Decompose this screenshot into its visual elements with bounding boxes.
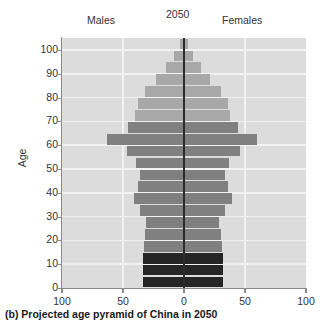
center-axis-line	[183, 38, 184, 288]
bar-males-75-79	[138, 98, 184, 109]
chart-year-title: 2050	[166, 8, 189, 20]
bar-females-30-34	[184, 205, 225, 216]
bar-females-45-49	[184, 170, 225, 181]
x-tick-mark-3	[244, 288, 245, 293]
x-tick-mark-0	[61, 288, 62, 293]
bar-males-0-4	[143, 277, 184, 288]
bar-males-35-39	[134, 193, 184, 204]
bar-males-60-64	[107, 134, 184, 145]
y-tick-label-70: 70	[6, 114, 58, 126]
bar-females-95-99	[184, 51, 193, 62]
bar-females-35-39	[184, 193, 232, 204]
bar-females-85-89	[184, 74, 210, 85]
y-tick-label-40: 40	[6, 186, 58, 198]
vgridline-50	[244, 38, 246, 288]
bar-females-55-59	[184, 146, 240, 157]
bar-females-40-44	[184, 181, 228, 192]
y-tick-label-60: 60	[6, 138, 58, 150]
bar-males-70-74	[135, 110, 184, 121]
bar-females-75-79	[184, 98, 228, 109]
bar-females-15-19	[184, 241, 222, 252]
bar-males-10-14	[143, 253, 184, 264]
vgridline-50	[122, 38, 124, 288]
y-tick-label-0: 0	[6, 281, 58, 293]
bar-males-45-49	[140, 170, 184, 181]
x-tick-label-2: 0	[164, 295, 204, 307]
x-tick-label-1: 50	[103, 295, 143, 307]
bar-males-80-84	[145, 86, 184, 97]
x-tick-mark-1	[122, 288, 123, 293]
bar-males-40-44	[138, 181, 184, 192]
x-tick-mark-2	[183, 288, 184, 293]
females-side-label: Females	[222, 14, 262, 26]
bar-males-90-94	[166, 62, 184, 73]
x-tick-label-0: 100	[42, 295, 82, 307]
bar-females-70-74	[184, 110, 230, 121]
y-tick-label-50: 50	[6, 162, 58, 174]
bar-males-30-34	[140, 205, 184, 216]
age-pyramid-figure: Males 2050 Females Age 01020304050607080…	[0, 0, 330, 326]
plot-area	[62, 38, 306, 288]
y-tick-label-90: 90	[6, 67, 58, 79]
y-tick-label-80: 80	[6, 91, 58, 103]
bar-males-20-24	[145, 229, 184, 240]
figure-caption: (b) Projected age pyramid of China in 20…	[5, 308, 217, 320]
bar-males-15-19	[144, 241, 184, 252]
bar-females-80-84	[184, 86, 221, 97]
bar-females-90-94	[184, 62, 201, 73]
bar-females-60-64	[184, 134, 257, 145]
x-tick-label-4: 100	[286, 295, 326, 307]
y-tick-label-100: 100	[6, 43, 58, 55]
bar-males-5-9	[143, 265, 184, 276]
males-side-label: Males	[87, 14, 115, 26]
bar-females-0-4	[184, 277, 223, 288]
y-tick-label-30: 30	[6, 210, 58, 222]
bar-females-10-14	[184, 253, 223, 264]
bar-females-25-29	[184, 217, 219, 228]
x-tick-mark-4	[305, 288, 306, 293]
x-tick-label-3: 50	[225, 295, 265, 307]
bar-females-5-9	[184, 265, 223, 276]
bar-males-50-54	[136, 158, 184, 169]
y-axis-ticks: 0102030405060708090100	[0, 0, 58, 326]
y-tick-label-10: 10	[6, 257, 58, 269]
bar-females-20-24	[184, 229, 221, 240]
bar-males-25-29	[146, 217, 184, 228]
bar-males-55-59	[127, 146, 184, 157]
bar-males-85-89	[156, 74, 184, 85]
y-tick-label-20: 20	[6, 233, 58, 245]
bar-males-65-69	[128, 122, 184, 133]
bar-females-65-69	[184, 122, 238, 133]
bar-females-50-54	[184, 158, 229, 169]
